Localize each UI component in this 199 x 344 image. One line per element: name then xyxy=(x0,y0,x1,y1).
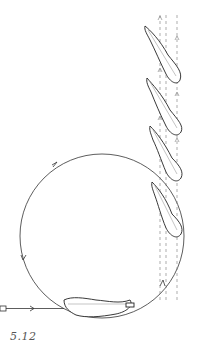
entry-path xyxy=(0,306,64,311)
feather-positions xyxy=(64,26,182,317)
loop-circle xyxy=(20,154,184,318)
trajectory-diagram xyxy=(0,0,199,344)
figure-caption: 5.12 xyxy=(10,330,37,343)
feather-5 xyxy=(64,298,131,317)
